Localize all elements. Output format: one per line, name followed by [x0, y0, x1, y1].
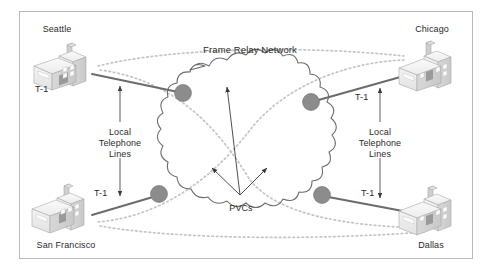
- local-loop-left-line2: Telephone: [99, 138, 141, 148]
- building-seattle: [34, 43, 86, 90]
- local-loop-right-line2: Telephone: [359, 138, 401, 148]
- local-loop-right-line1: Local: [369, 127, 391, 137]
- node-dallas-switch: [314, 187, 331, 204]
- building-chicago: [399, 41, 451, 91]
- t1-label-dallas: T-1: [361, 188, 374, 199]
- site-label-sanfrancisco: San Francisco: [37, 240, 96, 251]
- node-chicago-switch: [303, 94, 320, 111]
- t1-label-seattle: T-1: [35, 84, 48, 95]
- site-label-chicago: Chicago: [415, 24, 449, 35]
- pvcs-label: PVCs: [229, 203, 252, 214]
- local-loop-left-line3: Lines: [109, 149, 131, 159]
- local-loop-right-line3: Lines: [369, 149, 391, 159]
- t1-label-chicago: T-1: [355, 92, 368, 103]
- local-loop-label-right: Local Telephone Lines: [345, 127, 415, 160]
- cloud-outline: [157, 49, 336, 207]
- t1-line-seattle: [92, 74, 178, 92]
- site-label-seattle: Seattle: [43, 24, 72, 35]
- t1-label-sanfrancisco: T-1: [94, 188, 107, 199]
- network-title-label: Frame Relay Network: [203, 44, 297, 55]
- frame-relay-diagram: Seattle Chicago San Francisco Dallas Fra…: [0, 0, 493, 278]
- diagram-canvas: [0, 0, 493, 278]
- local-loop-left-line1: Local: [109, 127, 131, 137]
- site-label-dallas: Dallas: [418, 240, 444, 251]
- pvc-sanfrancisco-dallas: [100, 226, 424, 237]
- local-loop-label-left: Local Telephone Lines: [85, 127, 155, 160]
- building-dallas: [399, 186, 451, 235]
- building-sanfrancisco: [32, 184, 84, 233]
- node-sanfrancisco-switch: [151, 186, 168, 203]
- frame-relay-cloud: [157, 49, 336, 207]
- node-seattle-switch: [175, 85, 192, 102]
